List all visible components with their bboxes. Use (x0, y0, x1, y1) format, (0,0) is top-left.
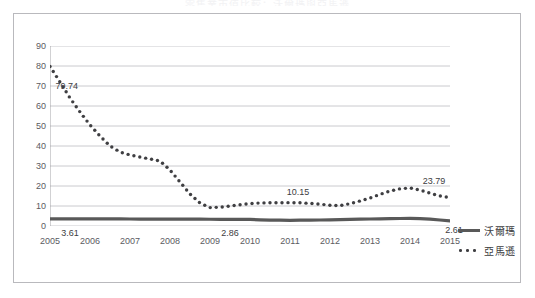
legend-key-dotted-line (458, 245, 480, 255)
y-axis-tick: 90 (20, 42, 46, 51)
x-axis-tick: 2008 (160, 236, 180, 246)
x-axis-tick: 2011 (280, 236, 299, 246)
chart-legend: 沃爾瑪 亞馬遜 (458, 220, 520, 260)
plot-area: 9080706050403020100 20052006200720082009… (14, 14, 522, 284)
x-axis-tick: 2006 (80, 236, 100, 246)
y-axis: 9080706050403020100 (20, 46, 46, 226)
x-axis-tick: 2009 (200, 236, 220, 246)
series-line-walmart (50, 218, 450, 220)
x-axis: 2005200620072008200920102011201220132014… (50, 236, 450, 250)
plot-svg (50, 46, 450, 226)
x-axis-tick: 2007 (120, 236, 140, 246)
data-label: 3.61 (61, 228, 79, 237)
y-axis-tick: 0 (20, 222, 46, 231)
y-axis-tick: 10 (20, 202, 46, 211)
y-axis-tick: 60 (20, 102, 46, 111)
chart-title: 零售業市值比較：沃爾瑪與亞馬遜 (0, 0, 535, 6)
series-dots-amazon (50, 65, 448, 209)
x-axis-tick: 2014 (400, 236, 420, 246)
y-axis-tick: 40 (20, 142, 46, 151)
y-axis-tick: 70 (20, 82, 46, 91)
y-axis-tick: 30 (20, 162, 46, 171)
legend-item-walmart[interactable]: 沃爾瑪 (458, 220, 520, 240)
legend-item-amazon[interactable]: 亞馬遜 (458, 240, 520, 260)
x-axis-tick: 2010 (240, 236, 260, 246)
y-axis-tick: 20 (20, 182, 46, 191)
x-axis-tick: 2015 (440, 236, 460, 246)
legend-label-walmart: 沃爾瑪 (484, 223, 516, 238)
x-axis-tick: 2013 (360, 236, 380, 246)
y-axis-tick: 80 (20, 62, 46, 71)
legend-label-amazon: 亞馬遜 (484, 243, 516, 258)
chart-frame: 9080706050403020100 20052006200720082009… (13, 13, 521, 283)
data-label: 23.79 (423, 177, 446, 186)
y-axis-tick: 50 (20, 122, 46, 131)
x-axis-tick: 2012 (320, 236, 340, 246)
data-label: 79.74 (56, 82, 79, 91)
x-axis-tick: 2005 (40, 236, 60, 246)
data-label: 2.86 (221, 229, 239, 238)
legend-key-solid-line (458, 225, 480, 235)
data-label: 10.15 (287, 187, 310, 196)
